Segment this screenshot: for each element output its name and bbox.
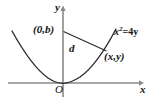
curve-point-label: (x,y) bbox=[104, 51, 124, 62]
origin-label: O bbox=[55, 84, 63, 95]
x-axis-label: x bbox=[140, 84, 146, 95]
y-intercept-label: (0,b) bbox=[33, 24, 54, 35]
equation-rest: =4y bbox=[123, 26, 139, 37]
parabola-curve bbox=[12, 29, 116, 83]
y-axis-label: y bbox=[55, 2, 60, 13]
y-axis-arrow-icon bbox=[60, 6, 65, 12]
parabola-equation-label: x2=4y bbox=[114, 26, 138, 37]
parabola-distance-figure: y x O (0,b) d (x,y) x2=4y bbox=[0, 0, 156, 112]
distance-label: d bbox=[69, 43, 75, 54]
figure-canvas bbox=[0, 0, 156, 112]
